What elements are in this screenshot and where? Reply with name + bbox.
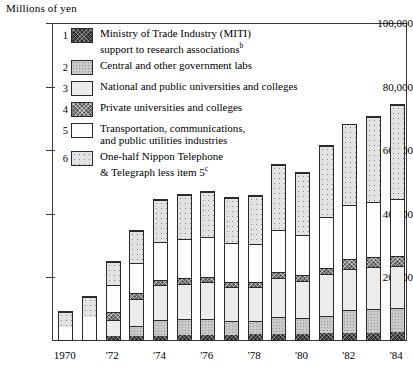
- bar-segment-central_gov_labs: [130, 326, 143, 336]
- bar-segment-miti: [201, 335, 214, 340]
- legend-item-label: Transportation, communications,and publi…: [100, 122, 245, 146]
- bar-segment-central_gov_labs: [320, 316, 333, 334]
- bar-segment-central_gov_labs: [249, 321, 262, 335]
- bar-segment-nippon_telegraph_half: [130, 231, 143, 263]
- bar-segment-central_gov_labs: [154, 320, 167, 336]
- bar-segment-transport_comm_utilities: [154, 242, 167, 281]
- bar-segment-private_universities: [367, 257, 380, 267]
- bar-segment-miti: [391, 332, 404, 340]
- legend-item-national_universities[interactable]: 3National and public universities and co…: [57, 80, 325, 97]
- legend-item-label: Private universities and colleges: [100, 101, 242, 114]
- bar-segment-national_universities: [130, 299, 143, 326]
- legend-item-central_gov_labs[interactable]: 2Central and other government labs: [57, 59, 325, 76]
- bar-segment-central_gov_labs: [343, 310, 356, 333]
- bar-1976[interactable]: [200, 191, 215, 341]
- bar-segment-nippon_telegraph_half: [343, 124, 356, 204]
- legend-item-transport_comm_utilities[interactable]: 5Transportation, communications,and publ…: [57, 122, 325, 146]
- bar-segment-nippon_telegraph_half: [391, 105, 404, 199]
- bar-segment-miti: [272, 334, 285, 340]
- bar-segment-private_universities: [343, 259, 356, 268]
- bar-segment-national_universities: [391, 266, 404, 309]
- bar-segment-miti: [296, 334, 309, 340]
- x-axis-tick-label: '78: [248, 349, 261, 361]
- bar-segment-miti: [367, 333, 380, 340]
- chart-legend: 1Ministry of Trade Industry (MITI)suppor…: [57, 27, 325, 183]
- bar-segment-nippon_telegraph_half: [59, 312, 72, 327]
- x-axis-tick-label: '84: [390, 349, 403, 361]
- bar-1974[interactable]: [153, 199, 168, 341]
- bar-segment-nippon_telegraph_half: [154, 200, 167, 242]
- bar-1978[interactable]: [248, 195, 263, 341]
- legend-swatch-icon: [71, 81, 93, 96]
- bar-segment-transport_comm_utilities: [343, 205, 356, 260]
- legend-swatch-icon: [71, 151, 93, 166]
- bar-segment-transport_comm_utilities: [130, 263, 143, 294]
- bar-segment-transport_comm_utilities: [320, 217, 333, 268]
- bar-segment-national_universities: [367, 267, 380, 309]
- bar-segment-national_universities: [272, 278, 285, 316]
- x-axis-tick-label: '76: [200, 349, 213, 361]
- bar-1983[interactable]: [366, 116, 381, 341]
- bar-segment-miti: [107, 336, 120, 340]
- bar-1980[interactable]: [295, 172, 310, 341]
- legend-item-number: 4: [57, 101, 68, 118]
- bar-segment-nippon_telegraph_half: [225, 198, 238, 243]
- legend-item-number: 6: [57, 150, 68, 167]
- bar-segment-miti: [320, 333, 333, 340]
- x-axis-tick-label: '72: [106, 349, 119, 361]
- legend-item-private_universities[interactable]: 4Private universities and colleges: [57, 101, 325, 118]
- bar-1975[interactable]: [177, 194, 192, 341]
- bar-segment-transport_comm_utilities: [272, 230, 285, 272]
- bar-segment-nippon_telegraph_half: [201, 192, 214, 237]
- legend-item-number: 2: [57, 59, 68, 76]
- bar-1984[interactable]: [390, 104, 405, 341]
- bar-segment-miti: [225, 335, 238, 340]
- bar-1982[interactable]: [342, 124, 357, 342]
- x-axis-tick-label: 1970: [54, 349, 76, 361]
- bar-segment-national_universities: [107, 320, 120, 336]
- bar-segment-miti: [154, 336, 167, 340]
- legend-item-number: 5: [57, 122, 68, 139]
- bar-segment-national_universities: [343, 269, 356, 310]
- legend-item-number: 3: [57, 80, 68, 97]
- bar-segment-miti: [178, 335, 191, 340]
- bar-segment-transport_comm_utilities: [367, 202, 380, 257]
- bar-segment-national_universities: [154, 285, 167, 319]
- bar-segment-national_universities: [178, 284, 191, 319]
- bar-segment-private_universities: [107, 312, 120, 319]
- legend-swatch-icon: [71, 28, 93, 43]
- bar-segment-national_universities: [201, 282, 214, 318]
- legend-item-label: Central and other government labs: [100, 59, 252, 72]
- bar-segment-nippon_telegraph_half: [367, 117, 380, 202]
- legend-item-miti[interactable]: 1Ministry of Trade Industry (MITI)suppor…: [57, 27, 325, 55]
- bar-1971[interactable]: [82, 296, 97, 341]
- bar-segment-transport_comm_utilities: [83, 317, 96, 340]
- bar-segment-nippon_telegraph_half: [178, 195, 191, 239]
- bar-1972[interactable]: [106, 261, 121, 341]
- x-axis-tick-label: '74: [153, 349, 166, 361]
- x-axis-tick-label: '80: [295, 349, 308, 361]
- bar-1970[interactable]: [58, 311, 73, 341]
- legend-swatch-icon: [71, 102, 93, 117]
- x-axis-tick-label: '82: [342, 349, 355, 361]
- legend-swatch-icon: [71, 123, 93, 138]
- bar-segment-transport_comm_utilities: [296, 235, 309, 275]
- bar-1979[interactable]: [271, 164, 286, 341]
- legend-item-number: 1: [57, 27, 68, 44]
- bar-segment-central_gov_labs: [391, 308, 404, 332]
- bar-1977[interactable]: [224, 197, 239, 341]
- bar-segment-central_gov_labs: [201, 319, 214, 335]
- bar-segment-transport_comm_utilities: [178, 239, 191, 278]
- legend-item-nippon_telegraph_half[interactable]: 6One-half Nippon Telephone& Telegraph le…: [57, 150, 325, 178]
- legend-item-label: One-half Nippon Telephone& Telegraph les…: [100, 150, 223, 178]
- bar-segment-transport_comm_utilities: [391, 199, 404, 255]
- bar-segment-transport_comm_utilities: [59, 327, 72, 340]
- bar-segment-national_universities: [225, 287, 238, 321]
- bar-segment-central_gov_labs: [367, 309, 380, 333]
- bar-1973[interactable]: [129, 230, 144, 341]
- stacked-bar-chart: Millions of yen 20,00040,00060,00080,000…: [0, 0, 413, 377]
- legend-item-label: Ministry of Trade Industry (MITI)support…: [100, 27, 251, 55]
- y-axis-unit-label: Millions of yen: [6, 2, 77, 14]
- bar-segment-miti: [130, 336, 143, 340]
- bar-segment-nippon_telegraph_half: [83, 297, 96, 317]
